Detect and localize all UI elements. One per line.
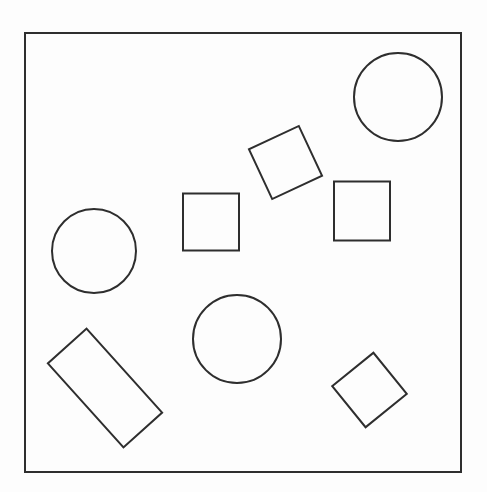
canvas-background [0, 0, 487, 492]
drawing-canvas-container [0, 0, 487, 492]
shape-canvas [0, 0, 487, 492]
